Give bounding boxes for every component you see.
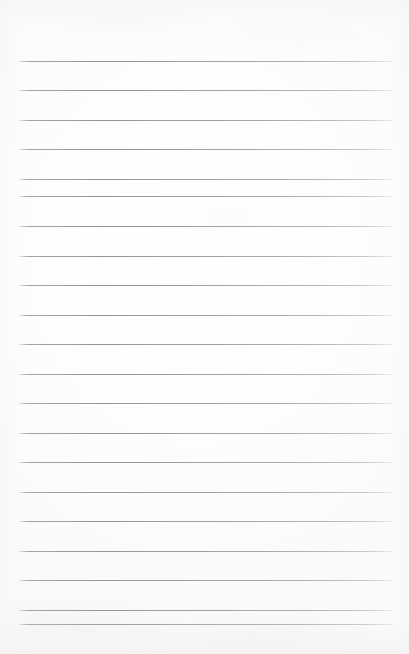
notepad-page bbox=[0, 0, 409, 654]
writing-area[interactable] bbox=[19, 50, 392, 638]
